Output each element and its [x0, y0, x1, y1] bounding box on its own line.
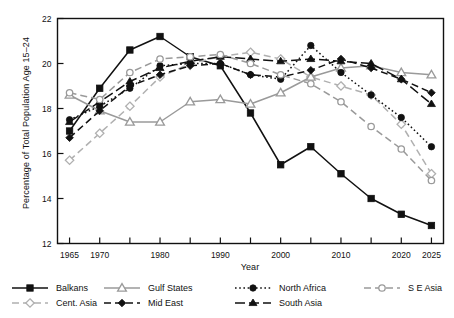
legend-label: South Asia [279, 298, 322, 308]
data-point-marker [247, 72, 253, 78]
legend-label: S E Asia [408, 283, 442, 293]
line-chart-plot: 121416182022 196519701980199020002010202… [0, 0, 454, 318]
data-point-marker [398, 114, 404, 120]
data-point-marker [247, 110, 253, 116]
data-point-marker [127, 47, 133, 53]
legend-item-north-africa[interactable]: North Africa [235, 283, 326, 293]
x-tick-label: 2020 [392, 250, 411, 260]
data-point-marker [127, 85, 133, 91]
data-point-marker [308, 42, 314, 48]
data-point-marker [368, 92, 374, 98]
data-point-marker [217, 51, 223, 57]
data-point-marker [66, 90, 72, 96]
data-point-marker [97, 85, 103, 91]
data-point-marker [308, 144, 314, 150]
legend-label: Cent. Asia [56, 298, 97, 308]
data-point-marker [338, 171, 344, 177]
legend-label: Mid East [148, 298, 184, 308]
y-tick-label: 18 [42, 104, 52, 114]
data-point-marker [277, 162, 283, 168]
chart-legend: BalkansCent. AsiaGulf StatesMid EastNort… [12, 283, 442, 308]
legend-label: Gulf States [148, 283, 193, 293]
data-point-marker [428, 177, 434, 183]
legend-item-mid-east[interactable]: Mid East [104, 298, 184, 308]
data-series-layer [65, 33, 436, 228]
legend-item-s-e-asia[interactable]: S E Asia [364, 283, 442, 293]
chart-figure: Percentage of Total Population Age 15–24… [0, 0, 454, 318]
x-tick-label: 1970 [90, 250, 109, 260]
x-tick-label: 1965 [60, 250, 79, 260]
data-point-marker [368, 195, 374, 201]
data-point-marker [127, 69, 133, 75]
data-point-marker [368, 123, 374, 129]
data-point-marker [157, 33, 163, 39]
legend-label: North Africa [279, 283, 326, 293]
legend-item-south-asia[interactable]: South Asia [235, 298, 322, 308]
data-point-marker [187, 54, 193, 60]
data-point-marker [216, 95, 225, 103]
data-point-marker [398, 146, 404, 152]
data-point-marker [126, 102, 134, 110]
data-point-marker [379, 285, 385, 291]
data-point-marker [307, 66, 315, 74]
x-tick-label: 2000 [271, 250, 290, 260]
y-tick-label: 12 [42, 239, 52, 249]
data-point-marker [428, 144, 434, 150]
x-axis-ticks: 19651970198019902000201020202025 [60, 238, 441, 260]
x-tick-label: 1980 [151, 250, 170, 260]
data-point-marker [250, 285, 256, 291]
y-tick-label: 22 [42, 14, 52, 24]
data-point-marker [26, 299, 34, 307]
data-point-marker [277, 72, 283, 78]
legend-item-gulf-states[interactable]: Gulf States [104, 283, 193, 293]
legend-item-balkans[interactable]: Balkans [12, 283, 89, 293]
x-tick-label: 1990 [211, 250, 230, 260]
data-point-marker [307, 55, 315, 62]
data-point-marker [276, 88, 285, 96]
data-point-marker [27, 285, 33, 291]
data-point-marker [217, 60, 223, 66]
data-point-marker [118, 299, 126, 307]
data-point-marker [337, 82, 345, 90]
data-point-marker [338, 99, 344, 105]
data-point-marker [397, 120, 405, 128]
data-point-marker [308, 81, 314, 87]
legend-label: Balkans [56, 283, 89, 293]
data-point-marker [428, 222, 434, 228]
data-point-marker [398, 211, 404, 217]
data-point-marker [338, 69, 344, 75]
y-tick-label: 20 [42, 59, 52, 69]
data-point-marker [247, 60, 253, 66]
data-point-marker [97, 96, 103, 102]
y-axis-ticks: 121416182022 [42, 14, 63, 249]
data-point-marker [157, 56, 163, 62]
y-tick-label: 14 [42, 194, 52, 204]
x-tick-label: 2025 [422, 250, 441, 260]
y-tick-label: 16 [42, 149, 52, 159]
x-tick-label: 2010 [332, 250, 351, 260]
legend-item-cent-asia[interactable]: Cent. Asia [12, 298, 97, 308]
data-point-marker [428, 89, 436, 97]
data-point-marker [66, 128, 72, 134]
